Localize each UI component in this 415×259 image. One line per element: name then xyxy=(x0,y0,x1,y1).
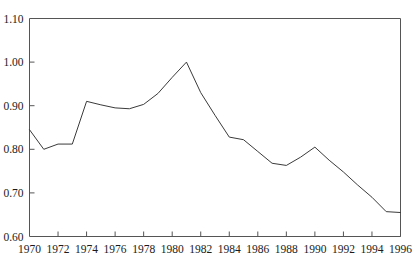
y-tick-label: 0.70 xyxy=(3,187,23,199)
x-tick-label: 1970 xyxy=(18,243,41,255)
chart-canvas: 0.600.700.800.901.001.10 197019721974197… xyxy=(0,0,415,259)
y-tick-label: 1.10 xyxy=(3,13,23,25)
y-tick-label: 0.80 xyxy=(3,143,23,155)
x-tick-label: 1978 xyxy=(132,243,155,255)
y-tick-label: 0.60 xyxy=(3,231,23,243)
y-tick-label: 0.90 xyxy=(3,100,23,112)
x-tick-label: 1976 xyxy=(104,243,127,255)
x-tick-label: 1990 xyxy=(303,243,326,255)
x-tick-label: 1982 xyxy=(189,243,212,255)
x-tick-label: 1980 xyxy=(161,243,184,255)
line-chart: 0.600.700.800.901.001.10 197019721974197… xyxy=(0,0,415,259)
x-tick-label: 1994 xyxy=(360,243,383,255)
chart-background xyxy=(0,0,415,259)
y-tick-label: 1.00 xyxy=(3,56,23,68)
x-tick-label: 1988 xyxy=(275,243,298,255)
x-tick-label: 1986 xyxy=(246,243,269,255)
x-tick-label: 1992 xyxy=(332,243,355,255)
x-tick-label: 1996 xyxy=(389,243,412,255)
x-tick-label: 1974 xyxy=(75,243,98,255)
x-tick-label: 1972 xyxy=(47,243,70,255)
x-tick-label: 1984 xyxy=(218,243,241,255)
